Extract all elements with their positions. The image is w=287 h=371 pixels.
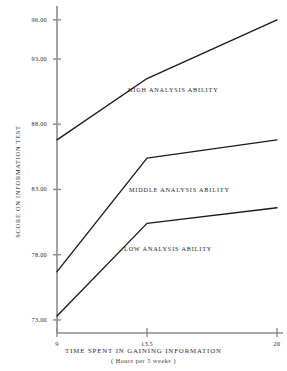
y-axis-title: SCORE ON INFORMATION TEST [14, 112, 21, 252]
series-line-0 [57, 20, 277, 140]
series-label-0: HIGH ANALYSIS ABILITY [128, 86, 218, 93]
x-axis-subtitle: ( Hours per 5 weeks ) [0, 357, 287, 364]
series-group [57, 20, 277, 316]
x-axis-title: TIME SPENT IN GAINING INFORMATION [0, 347, 287, 354]
chart-page: THE RESULTS OF THE TEST 73.0078.0083.008… [0, 0, 287, 371]
y-axis-tick-label: 96.00 [13, 16, 47, 23]
series-label-2: LOW ANALYSIS ABILITY [124, 245, 212, 252]
y-axis-tick-label: 78.00 [13, 251, 47, 258]
y-axis-tick-label: 73.00 [13, 316, 47, 323]
x-axis-tick-label: 13.5 [129, 340, 165, 347]
y-axis-tick-label: 93.00 [13, 55, 47, 62]
x-axis-tick-label: 20 [259, 340, 287, 347]
series-label-1: MIDDLE ANALYSIS ABILITY [129, 186, 230, 193]
series-line-2 [57, 208, 277, 316]
axes-group [53, 6, 283, 337]
x-axis-tick-label: 9 [39, 340, 75, 347]
